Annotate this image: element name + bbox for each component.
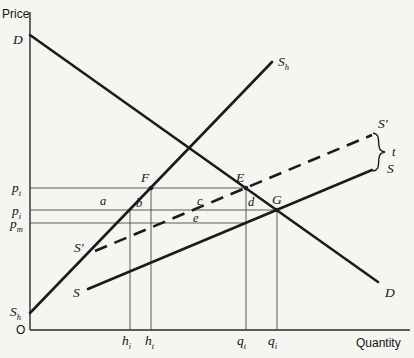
- area-b-label: b: [136, 196, 142, 210]
- tax-label: t: [392, 145, 396, 159]
- area-c-label: c: [197, 194, 203, 208]
- quantity-axis-label: Quantity: [356, 336, 401, 350]
- price-pt-label: pt: [11, 180, 22, 198]
- price-axis-label: Price: [2, 7, 30, 21]
- demand-label-bottom: D: [384, 285, 395, 300]
- origin-label: O: [16, 323, 25, 337]
- quantity-ht-label: ht: [145, 333, 155, 351]
- point-e-label: E: [235, 170, 245, 185]
- area-e-label: e: [193, 211, 199, 225]
- demand-label-top: D: [12, 32, 23, 47]
- area-a-label: a: [100, 194, 106, 208]
- supply-label-left: S: [73, 285, 80, 300]
- point-g-dot: [275, 208, 280, 213]
- home-supply-label-top: Sh: [278, 54, 289, 72]
- point-g-label: G: [272, 192, 282, 207]
- taxed-supply-label-right: S′: [378, 116, 389, 131]
- quantity-hi-label: hi: [122, 333, 132, 351]
- point-e-dot: [244, 186, 249, 191]
- tax-brace: [373, 133, 385, 171]
- area-d-label: d: [248, 195, 255, 209]
- home-supply-label-bottom: Sh: [10, 304, 21, 322]
- quantity-qi-label: qi: [268, 333, 278, 351]
- point-f-dot: [149, 186, 154, 191]
- point-f-label: F: [140, 170, 150, 185]
- supply-label-right: S: [387, 161, 394, 176]
- taxed-supply-curve: [95, 135, 372, 251]
- quantity-qt-label: qt: [237, 333, 247, 351]
- supply-demand-tax-diagram: Price Quantity O D D Sh Sh S S S′ S′ t F…: [0, 0, 414, 358]
- taxed-supply-label-left: S′: [74, 240, 85, 255]
